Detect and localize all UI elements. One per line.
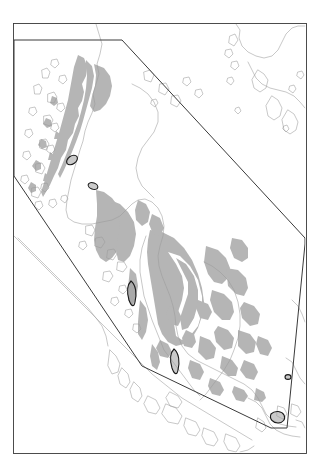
figure-root: ·	[0, 0, 319, 470]
map-canvas	[0, 0, 319, 470]
site-singapore	[270, 411, 284, 423]
site-islet	[285, 375, 291, 380]
